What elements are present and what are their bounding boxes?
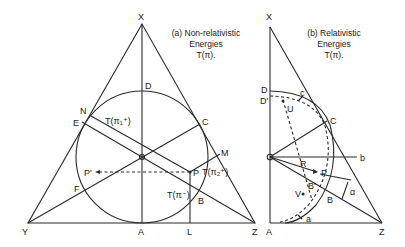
label-y: Y bbox=[22, 227, 28, 237]
label-t-pi1: T(π₁⁺) bbox=[105, 116, 131, 126]
label-z: Z bbox=[379, 227, 385, 237]
label-r: R bbox=[300, 159, 307, 169]
label-c: C bbox=[202, 117, 209, 127]
label-bprime: B' bbox=[308, 181, 316, 191]
label-z: Z bbox=[252, 227, 258, 237]
panel-b-relativistic: X D D' c U C R b P B' V B α a A Z (b) Re… bbox=[260, 12, 385, 237]
diagram-canvas: X Y Z A D N E C M F P P' L B T(π₁⁺) T(π₂… bbox=[0, 0, 405, 247]
label-f: F bbox=[74, 184, 80, 194]
caption-b-line1: (b) Relativistic bbox=[307, 28, 361, 38]
caption-b-line3: T(π). bbox=[324, 50, 343, 60]
arrow-head-icon bbox=[95, 170, 100, 174]
label-a: A bbox=[138, 227, 144, 237]
label-p: P bbox=[321, 168, 327, 178]
caption-b-line2: Energies bbox=[317, 39, 351, 49]
line-o-p bbox=[270, 157, 317, 172]
panel-a-nonrelativistic: X Y Z A D N E C M F P P' L B T(π₁⁺) T(π₂… bbox=[22, 12, 258, 237]
label-a-lower: a bbox=[306, 214, 311, 224]
label-x: X bbox=[266, 12, 272, 22]
label-c-lower: c bbox=[300, 88, 305, 98]
label-t-pi2: T(π₂⁺) bbox=[202, 167, 228, 177]
label-p: P bbox=[193, 168, 199, 178]
line-o-z bbox=[270, 157, 382, 223]
label-b-lower: b bbox=[360, 153, 365, 163]
label-u: U bbox=[287, 104, 294, 114]
label-alpha: α bbox=[350, 187, 355, 197]
label-e: E bbox=[73, 118, 79, 128]
label-b: B bbox=[198, 196, 204, 206]
caption-a-line3: T(π). bbox=[196, 50, 215, 60]
label-b: B bbox=[327, 195, 333, 205]
alpha-arrow bbox=[342, 182, 348, 199]
point-v bbox=[302, 193, 305, 196]
label-pprime: P' bbox=[84, 168, 92, 178]
label-m: M bbox=[221, 148, 229, 158]
label-a: A bbox=[266, 227, 272, 237]
arrow-head-icon bbox=[313, 169, 318, 174]
label-n: N bbox=[80, 106, 87, 116]
point-p bbox=[188, 170, 191, 173]
line-y-c bbox=[28, 124, 200, 223]
label-t-pim: T(π⁻) bbox=[167, 190, 190, 200]
caption-a-line1: (a) Non-relativistic bbox=[172, 28, 241, 38]
label-d: D bbox=[145, 81, 152, 91]
point-u bbox=[282, 100, 285, 103]
label-v: V bbox=[295, 189, 301, 199]
line-z-e bbox=[82, 122, 255, 223]
label-l: L bbox=[187, 227, 192, 237]
label-dprime: D' bbox=[260, 96, 268, 106]
caption-a-line2: Energies bbox=[189, 39, 223, 49]
label-x: X bbox=[138, 12, 144, 22]
label-c: C bbox=[330, 116, 337, 126]
line-o-c bbox=[270, 121, 327, 157]
label-d: D bbox=[261, 85, 268, 95]
